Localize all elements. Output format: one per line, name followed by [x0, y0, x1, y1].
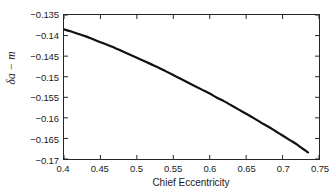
y-axis-title-text: δa − m	[5, 52, 17, 85]
axis-tick-marks	[64, 15, 319, 159]
y-axis-tick-label: −0.15	[35, 71, 59, 82]
y-axis-title: δa − m	[5, 33, 17, 103]
x-axis-tick-label: 0.75	[311, 163, 329, 174]
y-axis-tick-label: −0.155	[30, 92, 59, 103]
y-axis-tick-label: −0.165	[30, 134, 59, 145]
y-axis-tick-label: −0.145	[30, 50, 59, 61]
y-axis-tick-label: −0.135	[30, 9, 59, 20]
x-axis-tick-label: 0.65	[238, 163, 256, 174]
x-axis-tick-label: 0.4	[57, 163, 70, 174]
x-axis-title-text: Chief Eccentricity	[152, 177, 229, 188]
x-axis-title: Chief Eccentricity	[0, 177, 336, 188]
x-axis-tick-label: 0.6	[203, 163, 216, 174]
y-axis-tick-label: −0.16	[35, 113, 59, 124]
plot-canvas	[64, 15, 319, 159]
x-axis-tick-label: 0.7	[277, 163, 290, 174]
figure-chart-delta-a-minus-m: −0.135−0.14−0.145−0.15−0.155−0.16−0.165−…	[0, 0, 336, 196]
y-axis-tick-label: −0.14	[35, 29, 59, 40]
plot-area	[63, 14, 320, 160]
data-series-line	[64, 29, 308, 152]
x-axis-tick-label: 0.45	[91, 163, 109, 174]
x-axis-tick-labels: 0.40.450.50.550.60.650.70.75	[0, 163, 336, 177]
x-axis-tick-label: 0.5	[130, 163, 143, 174]
x-axis-tick-label: 0.55	[164, 163, 182, 174]
